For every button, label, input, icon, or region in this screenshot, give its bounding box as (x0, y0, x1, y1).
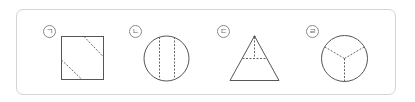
figures-canvas (0, 0, 415, 102)
circle-parallel-folds-figure (144, 36, 189, 81)
square-figure (62, 37, 104, 80)
triangle-figure (230, 36, 279, 81)
circle-three-radii-figure (322, 36, 368, 82)
